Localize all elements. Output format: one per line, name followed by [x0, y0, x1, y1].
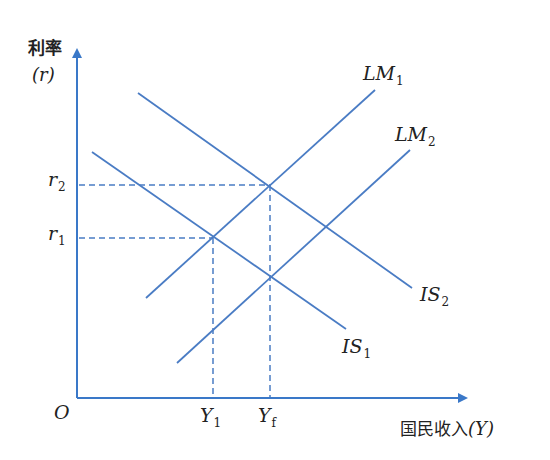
x-axis-label: 国民收入(Y) — [400, 420, 494, 438]
lm1-curve — [146, 90, 375, 298]
yf-label: Yf — [258, 406, 276, 429]
origin-label: O — [54, 403, 70, 422]
lm2-label: LM2 — [395, 125, 436, 148]
lm2-curve — [177, 150, 410, 363]
diagram-canvas — [0, 0, 550, 460]
is1-curve — [92, 152, 346, 329]
r1-label: r1 — [48, 224, 66, 247]
r2-label: r2 — [48, 170, 66, 193]
is-lm-diagram: 利率 (r) O 国民收入(Y) LM1 LM2 IS1 IS2 r2 r1 Y… — [0, 0, 550, 460]
is2-curve — [138, 93, 412, 288]
is2-label: IS2 — [420, 285, 449, 308]
x-axis-label-text: 国民收入 — [400, 419, 468, 439]
y1-label: Y1 — [200, 406, 221, 429]
is1-label: IS1 — [342, 337, 371, 360]
x-axis-symbol: (Y) — [468, 418, 494, 439]
y-axis-symbol: (r) — [32, 66, 55, 84]
y-axis-label: 利率 — [28, 40, 62, 57]
lm1-label: LM1 — [363, 64, 404, 87]
